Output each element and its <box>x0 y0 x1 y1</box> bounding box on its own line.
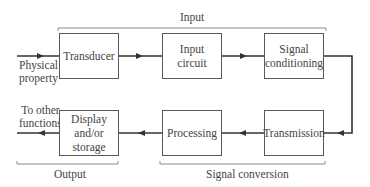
display-storage-line3: storage <box>71 140 107 154</box>
processing-label: Processing <box>167 126 217 140</box>
to-other-functions-line1: To other <box>19 104 62 117</box>
arrow-icon <box>239 130 246 136</box>
input-circuit-line1: Input <box>177 42 206 56</box>
input-circuit-line2: circuit <box>177 56 206 70</box>
processing-block: Processing <box>162 110 222 156</box>
arrow-icon <box>136 53 143 59</box>
transmission-block: Transmission <box>264 110 324 156</box>
signal-conversion-group-label: Signal conversion <box>206 167 289 181</box>
display-storage-line2: and/or <box>71 126 107 140</box>
output-group-label: Output <box>54 167 86 181</box>
input-circuit-block: Input circuit <box>162 33 222 79</box>
connector-lines <box>0 0 370 187</box>
to-other-functions-line2: functions <box>19 117 62 130</box>
signal-conditioning-line2: conditioning <box>265 56 323 70</box>
input-group-label: Input <box>180 10 204 24</box>
display-storage-line1: Display <box>71 112 107 126</box>
arrow-icon <box>337 130 344 136</box>
transducer-label: Transducer <box>63 49 114 63</box>
input-bracket <box>58 28 326 31</box>
arrow-icon <box>138 130 145 136</box>
to-other-functions-label: To other functions <box>19 104 62 130</box>
transmission-label: Transmission <box>263 126 325 140</box>
output-bracket <box>17 161 118 164</box>
physical-property-line2: property <box>19 72 58 85</box>
signal-conditioning-line1: Signal <box>265 42 323 56</box>
signal-conversion-bracket <box>160 161 325 164</box>
arrow-icon <box>240 53 247 59</box>
physical-property-label: Physical property <box>19 59 58 85</box>
display-storage-block: Display and/or storage <box>59 110 119 156</box>
transducer-block: Transducer <box>59 33 119 79</box>
arrow-icon <box>38 130 45 136</box>
physical-property-line1: Physical <box>19 59 58 72</box>
signal-conditioning-block: Signal conditioning <box>264 33 324 79</box>
